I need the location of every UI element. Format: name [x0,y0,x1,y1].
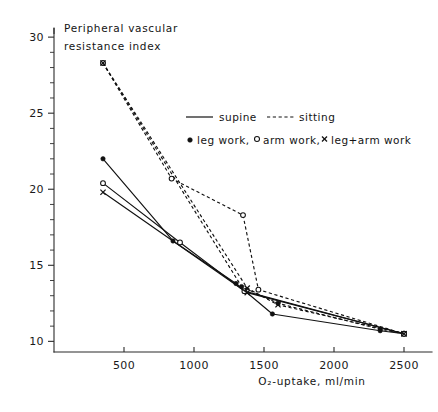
y-tick-label: 25 [29,107,44,120]
y-tick-label: 15 [29,259,44,272]
series-line-solid [103,159,404,334]
marker-cross [100,190,105,195]
legend-filled-circle-marker [188,138,193,143]
x-tick-label: 2000 [319,359,349,372]
chart-legend: supine sitting leg work, arm work, leg+a… [186,111,412,146]
x-tick-label: 1000 [179,359,209,372]
x-axis-tick-labels: 5001000150020002500 [113,359,419,372]
legend-leg-arm-work-label: leg+arm work [331,134,412,146]
marker-filled-circle [270,312,274,316]
marker-open-circle [101,181,106,186]
y-tick-label: 20 [29,183,44,196]
x-tick-label: 1500 [249,359,279,372]
legend-sitting-label: sitting [299,111,335,123]
series-5 [100,60,406,336]
series-2 [100,190,406,337]
y-axis-title-line1: Peripheral vascular [64,22,178,34]
x-tick-label: 2500 [389,359,419,372]
marker-open-circle [256,287,261,292]
series-line-solid [103,192,404,333]
series-1 [101,181,407,336]
chart-figure: 1015202530 5001000150020002500 Periphera… [0,0,438,412]
series-0 [101,157,406,336]
marker-open-circle [169,176,174,181]
legend-supine-label: supine [219,111,257,123]
axes [54,28,432,352]
y-axis-tick-labels: 1015202530 [29,31,44,348]
y-axis-title-line2: resistance index [64,40,161,52]
marker-filled-circle [101,157,105,161]
x-tick-label: 500 [113,359,135,372]
peripheral-vascular-resistance-chart: 1015202530 5001000150020002500 Periphera… [0,0,438,412]
legend-cross-marker [322,137,327,142]
x-axis-title: O₂-uptake, ml/min [258,375,365,387]
y-axis-ticks [48,37,54,341]
y-tick-label: 30 [29,31,44,44]
legend-open-circle-marker [255,137,260,142]
legend-leg-work-label: leg work, [197,134,250,146]
legend-arm-work-label: arm work, [263,134,320,146]
y-tick-label: 10 [29,335,44,348]
marker-open-circle [241,213,246,218]
series-line-solid [103,183,404,334]
x-axis-ticks [124,347,404,352]
marker-filled-circle [239,284,243,288]
data-series-layer [100,60,406,336]
